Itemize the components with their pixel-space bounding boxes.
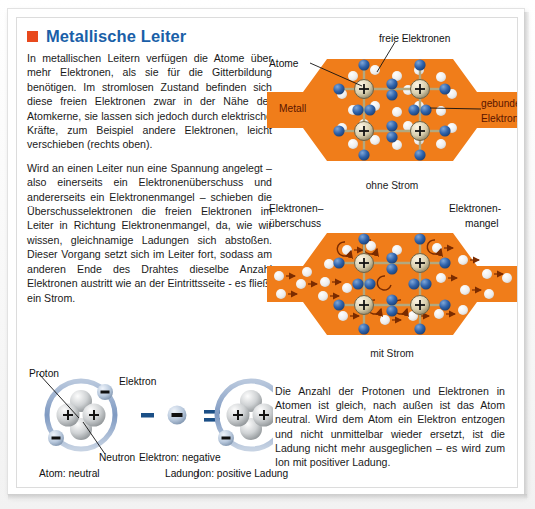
label-neutron: Neutron [99, 452, 135, 463]
page-root: Metallische Leiter In metallischen Leite… [0, 0, 535, 509]
label-metal: Metall [279, 102, 306, 115]
caption-electron-negative-2: Ladung [165, 468, 199, 479]
label-electron-deficit-2: mangel [465, 217, 498, 230]
label-proton: Proton [29, 368, 59, 379]
body-paragraph-1: In metallischen Leitern verfügen die Ato… [27, 51, 272, 152]
diagram-with-current: Elektronen– überschuss Elektronen- mange… [267, 200, 517, 368]
diagram-column: Atome freie Elektronen Metall gebundene … [267, 18, 517, 368]
label-bound-electrons-2: Elektronen [481, 112, 518, 125]
caption-atom-neutral: Atom: neutral [39, 468, 100, 479]
bottom-section: Proton Elektron Neutron Atom: neutral El… [17, 370, 517, 487]
label-electron-deficit-1: Elektronen- [449, 202, 501, 215]
page-frame-shadow-right [524, 12, 529, 498]
page-title-text: Metallische Leiter [46, 27, 186, 46]
positive-ion-figure [217, 381, 273, 449]
label-atoms: Atome [269, 57, 298, 70]
minus-sign-icon [141, 413, 154, 418]
caption-no-current: ohne Strom [267, 180, 517, 191]
label-electron-surplus-2: überschuss [269, 217, 321, 230]
page-title: Metallische Leiter [27, 27, 186, 46]
caption-electron-negative-1: Elektron: negative [139, 452, 221, 463]
metal-lattice-with-current-graphic [267, 216, 517, 366]
equation-symbols [141, 406, 220, 425]
page-content: Metallische Leiter In metallischen Leite… [16, 17, 518, 488]
caption-with-current: mit Strom [267, 348, 517, 359]
label-electron-surplus-1: Elektronen– [269, 202, 323, 215]
label-electron: Elektron [119, 376, 156, 387]
caption-ion-positive: Ion: positive Ladung [197, 468, 288, 479]
bottom-paragraph: Die Anzahl der Protonen und Elektronen i… [275, 384, 505, 469]
body-text-column: In metallischen Leitern verfügen die Ato… [27, 51, 272, 305]
neutral-atom-figure [39, 374, 115, 454]
bullet-square-icon [27, 31, 38, 42]
label-free-electrons: freie Elektronen [379, 32, 450, 45]
page-frame-shadow-bottom [8, 494, 527, 500]
bottom-text-block: Die Anzahl der Protonen und Elektronen i… [275, 384, 505, 469]
body-paragraph-2: Wird an einen Leiter nun eine Spannung a… [27, 161, 272, 305]
label-bound-electrons-1: gebundene [481, 97, 518, 110]
diagram-no-current: Atome freie Elektronen Metall gebundene … [267, 32, 517, 192]
